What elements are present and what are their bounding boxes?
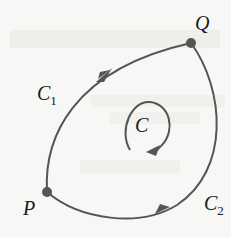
label-c1: C1 <box>37 82 57 108</box>
point-p <box>42 187 52 197</box>
label-p: P <box>22 197 35 219</box>
label-c2: C2 <box>204 192 224 218</box>
label-q: Q <box>195 12 210 34</box>
label-c-closed: C <box>135 114 149 136</box>
line-integral-diagram: Q P C1 C2 C <box>0 0 231 237</box>
point-q <box>186 38 196 48</box>
orientation-arrowhead-icon <box>146 145 160 156</box>
curve-c2 <box>47 43 217 218</box>
